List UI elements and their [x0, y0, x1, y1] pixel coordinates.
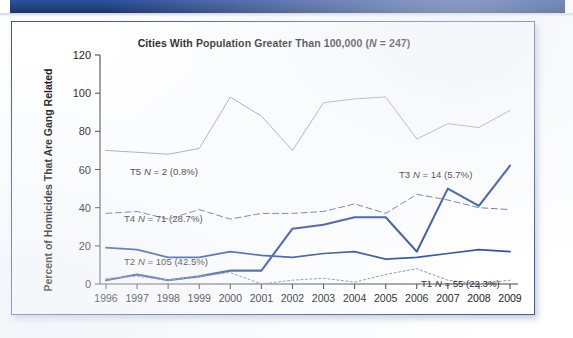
x-tick-label: 1999 [188, 292, 212, 304]
y-tick-label: 0 [85, 278, 91, 290]
series-annotation: T2 N = 105 (42.5%) [124, 256, 208, 267]
x-tick-label: 2000 [219, 292, 243, 304]
banner-shadow [0, 13, 573, 17]
x-tick-label: 1996 [94, 292, 118, 304]
y-tick-label: 60 [79, 164, 91, 176]
y-tick-label: 120 [73, 49, 91, 61]
x-tick-label: 2004 [343, 292, 367, 304]
x-tick-label: 2005 [374, 292, 398, 304]
series-annotation: T3 N = 14 (5.7%) [399, 169, 472, 180]
x-tick-label: 1998 [156, 292, 180, 304]
banner-right-cap [565, 0, 573, 13]
y-tick-label: 40 [79, 202, 91, 214]
banner-left-cap [0, 0, 10, 13]
y-tick-label: 80 [79, 125, 91, 137]
y-tick-label: 100 [73, 87, 91, 99]
figure-page: Cities With Population Greater Than 100,… [0, 0, 573, 338]
x-tick-label: 2007 [436, 292, 460, 304]
figure-card: Cities With Population Greater Than 100,… [11, 21, 535, 315]
x-tick-label: 2002 [281, 292, 305, 304]
chart-plot: 0204060801001201996199719981999200020012… [12, 22, 533, 313]
x-tick-label: 2009 [498, 292, 522, 304]
series-annotations: T5 N = 2 (0.8%)T4 N = 71 (28.7%)T2 N = 1… [124, 166, 500, 289]
series-line-t5 [106, 97, 510, 154]
x-tick-label: 2003 [312, 292, 336, 304]
y-tick-label: 20 [79, 240, 91, 252]
series-annotation: T1 N = 55 (22.3%) [421, 278, 500, 289]
x-tick-label: 1997 [125, 292, 149, 304]
top-blue-banner [0, 0, 573, 13]
x-tick-label: 2006 [405, 292, 429, 304]
x-tick-label: 2001 [250, 292, 274, 304]
series-annotation: T5 N = 2 (0.8%) [130, 166, 198, 177]
x-tick-label: 2008 [467, 292, 491, 304]
series-annotation: T4 N = 71 (28.7%) [124, 213, 203, 224]
